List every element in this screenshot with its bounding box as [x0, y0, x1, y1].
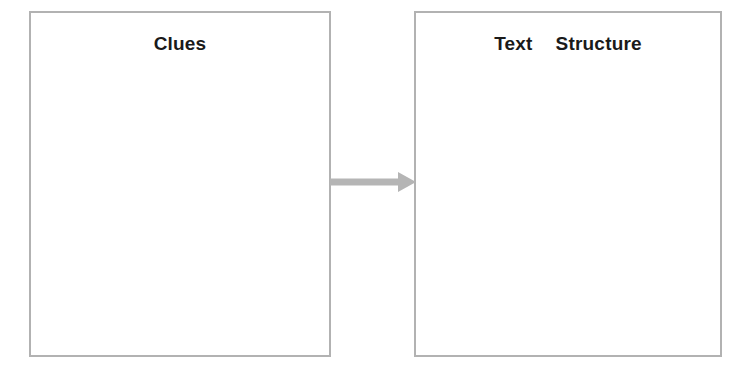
arrow-right-icon — [330, 168, 416, 196]
organizer-box-clues[interactable]: Clues — [29, 11, 331, 357]
organizer-box-text-structure[interactable]: Text Structure — [414, 11, 722, 357]
box-body-clues[interactable] — [31, 65, 329, 355]
box-title-text-structure: Text Structure — [416, 33, 720, 55]
diagram-canvas: Clues Text Structure — [0, 0, 748, 374]
box-title-clues: Clues — [31, 33, 329, 55]
box-body-text-structure[interactable] — [416, 65, 720, 355]
